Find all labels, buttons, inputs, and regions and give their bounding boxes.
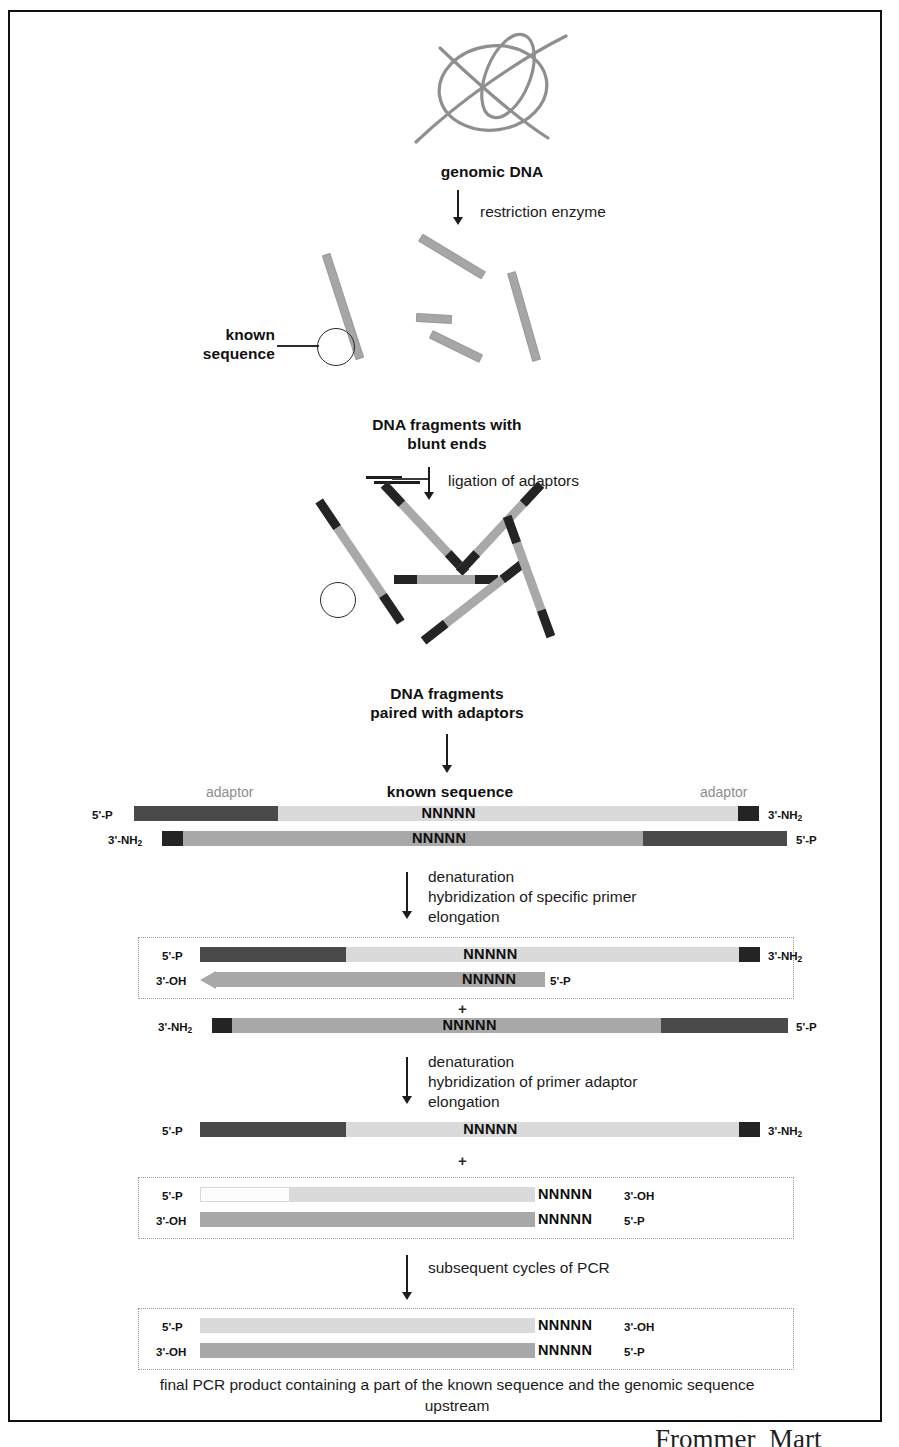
paired-with-adaptors-label: DNA fragments paired with adaptors bbox=[302, 684, 592, 722]
panel5-top-strand bbox=[200, 1187, 535, 1202]
panel3-marker: NNNNN bbox=[442, 1017, 496, 1033]
duplex-panel-6: 5'-P NNNNN 3'-OH 3'-OH NNNNN 5'-P bbox=[10, 1308, 884, 1370]
panel2-bottom-right-end: 5'-P bbox=[550, 975, 571, 987]
duplex1-top-right-end: 3'-NH2 bbox=[768, 809, 802, 823]
panel2-top-left-end: 5'-P bbox=[162, 950, 183, 962]
denaturation-step-2-label: denaturation hybridization of primer ada… bbox=[428, 1052, 637, 1112]
plus-sign-2: + bbox=[458, 1152, 467, 1169]
plus-sign-1: + bbox=[458, 1000, 467, 1017]
duplex1-bottom-strand: NNNNN bbox=[162, 831, 787, 846]
panel5-bottom-right-end: 5'-P bbox=[624, 1215, 645, 1227]
figure-frame: genomic DNA restriction enzyme known seq… bbox=[8, 10, 882, 1422]
panel6-bottom-left-end: 3'-OH bbox=[156, 1346, 186, 1358]
panel5-bottom-left-end: 3'-OH bbox=[156, 1215, 186, 1227]
arrow-subsequent-cycles bbox=[406, 1255, 408, 1293]
adaptor-fragment bbox=[456, 482, 544, 576]
denaturation-step-1-label: denaturation hybridization of specific p… bbox=[428, 867, 636, 927]
genomic-dna-label: genomic DNA bbox=[347, 162, 637, 181]
restriction-enzyme-label: restriction enzyme bbox=[480, 202, 606, 222]
duplex1-top-marker: NNNNN bbox=[422, 805, 476, 821]
panel3-right-end: 5'-P bbox=[796, 1021, 817, 1033]
page-signature: Frommer Mart bbox=[655, 1424, 899, 1447]
panel3-left-end: 3'-NH2 bbox=[158, 1021, 192, 1035]
adaptor-left-label: adaptor bbox=[206, 784, 253, 800]
panel6-top-left-end: 5'-P bbox=[162, 1321, 183, 1333]
arrow-to-duplex bbox=[446, 734, 448, 766]
subsequent-cycles-label: subsequent cycles of PCR bbox=[428, 1258, 610, 1278]
ligation-of-adaptors-label: ligation of adaptors bbox=[448, 471, 579, 491]
duplex-panel-1: adaptor known sequence adaptor 5'-P NNNN… bbox=[10, 784, 884, 864]
panel6-bottom-marker: NNNNN bbox=[538, 1342, 592, 1358]
panel4-strand: NNNNN bbox=[200, 1122, 760, 1137]
duplex1-bottom-right-end: 5'-P bbox=[796, 834, 817, 846]
panel2-top-marker: NNNNN bbox=[463, 946, 517, 962]
panel2-bottom-left-end: 3'-OH bbox=[156, 975, 186, 987]
duplex1-bottom-left-end: 3'-NH2 bbox=[108, 834, 142, 848]
adaptor-fragment bbox=[421, 559, 527, 645]
figure-canvas: genomic DNA restriction enzyme known seq… bbox=[10, 12, 884, 1424]
arrow-ligation-of-adaptors bbox=[428, 467, 430, 493]
panel2-bottom-marker: NNNNN bbox=[462, 971, 516, 987]
duplex1-top-left-end: 5'-P bbox=[92, 809, 113, 821]
panel6-top-right-end: 3'-OH bbox=[624, 1321, 654, 1333]
panel4-right-end: 3'-NH2 bbox=[768, 1125, 802, 1139]
panel6-bottom-strand bbox=[200, 1343, 535, 1358]
duplex-panel-3: 3'-NH2 NNNNN 5'-P bbox=[10, 1018, 884, 1048]
known-sequence-circle bbox=[317, 328, 355, 366]
known-sequence-header-label: known sequence bbox=[340, 782, 560, 801]
panel4-left-end: 5'-P bbox=[162, 1125, 183, 1137]
panel3-strand: NNNNN bbox=[212, 1018, 788, 1033]
dna-fragment bbox=[418, 234, 486, 280]
adaptor-fragment bbox=[394, 575, 498, 584]
genomic-dna-illustration bbox=[398, 30, 588, 150]
panel2-top-right-end: 3'-NH2 bbox=[768, 950, 802, 964]
duplex1-bottom-marker: NNNNN bbox=[412, 830, 466, 846]
panel4-marker: NNNNN bbox=[463, 1121, 517, 1137]
duplex-panel-5: 5'-P NNNNN 3'-OH 3'-OH NNNNN 5'-P bbox=[10, 1177, 884, 1239]
panel2-top-strand: NNNNN bbox=[200, 947, 760, 962]
panel5-top-left-end: 5'-P bbox=[162, 1190, 183, 1202]
duplex1-top-strand: NNNNN bbox=[134, 806, 759, 821]
arrow-denaturation-1 bbox=[406, 872, 408, 912]
panel5-bottom-marker: NNNNN bbox=[538, 1211, 592, 1227]
arrow-denaturation-2 bbox=[406, 1057, 408, 1097]
dna-fragment bbox=[416, 313, 452, 324]
duplex-panel-4: 5'-P NNNNN 3'-NH2 bbox=[10, 1122, 884, 1152]
panel6-top-marker: NNNNN bbox=[538, 1317, 592, 1333]
arrow-restriction-enzyme bbox=[457, 190, 459, 218]
ligation-connector-line bbox=[392, 478, 428, 480]
known-sequence-circle-2 bbox=[320, 582, 356, 618]
known-sequence-leader-line bbox=[277, 345, 319, 347]
dna-fragment bbox=[429, 330, 483, 363]
blunt-ends-label: DNA fragments with blunt ends bbox=[302, 415, 592, 453]
known-sequence-callout-label: known sequence bbox=[175, 325, 275, 363]
panel5-bottom-strand bbox=[200, 1212, 535, 1227]
final-caption: final PCR product containing a part of t… bbox=[147, 1374, 767, 1416]
adaptor-glyph bbox=[366, 474, 426, 486]
dna-fragment bbox=[507, 271, 541, 362]
adaptor-right-label: adaptor bbox=[700, 784, 747, 800]
duplex-panel-2: 5'-P NNNNN 3'-NH2 3'-OH NNNNN 5'-P bbox=[10, 937, 884, 999]
panel5-top-marker: NNNNN bbox=[538, 1186, 592, 1202]
panel6-top-strand bbox=[200, 1318, 535, 1333]
panel6-bottom-right-end: 5'-P bbox=[624, 1346, 645, 1358]
panel5-top-right-end: 3'-OH bbox=[624, 1190, 654, 1202]
